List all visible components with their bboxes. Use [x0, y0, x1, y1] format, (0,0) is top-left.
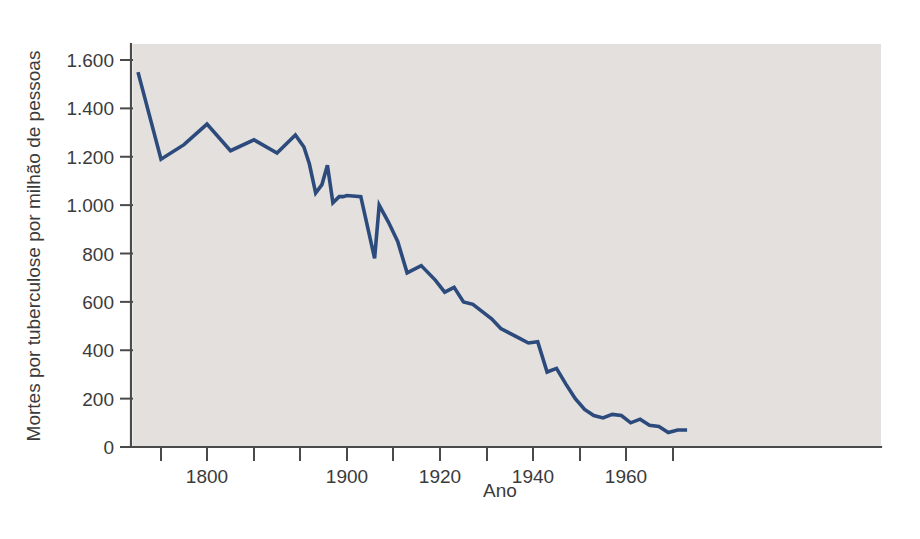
y-axis-tick-label: 1.200	[66, 147, 114, 168]
y-axis-tick-label: 400	[82, 340, 114, 361]
x-axis-tick-label: 1940	[512, 466, 554, 487]
plot-area-background	[133, 44, 881, 447]
x-axis-tick-label: 1960	[605, 466, 647, 487]
x-axis-tick-label: 1920	[419, 466, 461, 487]
y-axis-tick-label: 1.000	[66, 195, 114, 216]
x-axis-tick-label: 1800	[186, 466, 228, 487]
y-axis-tick-labels: 02004006008001.0001.2001.4001.600	[66, 50, 114, 458]
tuberculosis-mortality-chart: 02004006008001.0001.2001.4001.600 180019…	[0, 0, 920, 539]
y-axis-tick-label: 0	[103, 437, 114, 458]
chart-canvas: 02004006008001.0001.2001.4001.600 180019…	[0, 0, 920, 539]
y-axis-title: Mortes por tuberculose por milhão de pes…	[23, 51, 44, 442]
y-axis-tick-label: 600	[82, 292, 114, 313]
y-axis-tick-label: 800	[82, 244, 114, 265]
y-axis-tick-label: 1.400	[66, 98, 114, 119]
x-axis-title: Ano	[483, 480, 517, 501]
x-axis-tick-label: 1900	[326, 466, 368, 487]
y-axis-tick-label: 1.600	[66, 50, 114, 71]
x-axis-tick-labels: 18001900192019401960	[186, 466, 647, 487]
y-axis-tick-label: 200	[82, 389, 114, 410]
